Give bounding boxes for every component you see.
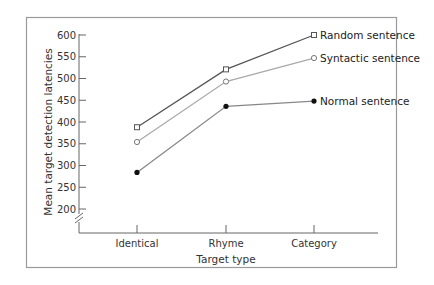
- y-tick-label: 500: [57, 73, 76, 84]
- x-axis: IdenticalRhymeCategory: [79, 225, 378, 249]
- y-tick-label: 350: [57, 138, 76, 149]
- x-tick-label: Identical: [116, 238, 159, 249]
- series-normal-sentence: Normal sentence: [134, 95, 409, 175]
- y-tick-label: 300: [57, 160, 76, 171]
- circle-marker-icon: [311, 55, 316, 60]
- y-tick-label: 450: [57, 95, 76, 106]
- line-chart: 200250300350400450500550600 IdenticalRhy…: [0, 0, 434, 285]
- dot-marker-icon: [311, 99, 316, 104]
- series-group: Random sentenceSyntactic sentenceNormal …: [134, 29, 420, 176]
- x-tick-label: Category: [291, 238, 337, 249]
- square-marker-icon: [224, 67, 229, 72]
- y-tick-label: 400: [57, 117, 76, 128]
- legend-label: Syntactic sentence: [320, 52, 420, 64]
- square-marker-icon: [312, 33, 317, 38]
- circle-marker-icon: [223, 79, 228, 84]
- x-tick-label: Rhyme: [208, 238, 243, 249]
- dot-marker-icon: [223, 104, 228, 109]
- square-marker-icon: [135, 125, 140, 130]
- legend-label: Random sentence: [320, 29, 415, 41]
- y-axis-label: Mean target detection latencies: [42, 48, 54, 215]
- y-axis: 200250300350400450500550600: [57, 30, 86, 234]
- y-tick-label: 250: [57, 182, 76, 193]
- y-tick-label: 600: [57, 30, 76, 41]
- circle-marker-icon: [134, 139, 139, 144]
- axis-break-icon: [75, 213, 83, 223]
- dot-marker-icon: [134, 170, 139, 175]
- legend-label: Normal sentence: [320, 95, 409, 107]
- y-tick-label: 200: [57, 204, 76, 215]
- y-tick-label: 550: [57, 51, 76, 62]
- x-axis-label: Target type: [195, 253, 255, 265]
